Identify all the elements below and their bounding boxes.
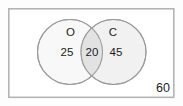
set-label-c: C — [109, 26, 117, 38]
count-c-only: 45 — [110, 46, 123, 58]
universal-set-count: 60 — [156, 81, 170, 95]
count-o-only: 25 — [61, 46, 74, 58]
venn-diagram-canvas: O C 25 20 45 60 — [0, 0, 183, 106]
count-intersection: 20 — [86, 46, 99, 58]
set-label-o: O — [66, 26, 75, 38]
venn-diagram-figure: O C 25 20 45 60 — [0, 0, 183, 106]
